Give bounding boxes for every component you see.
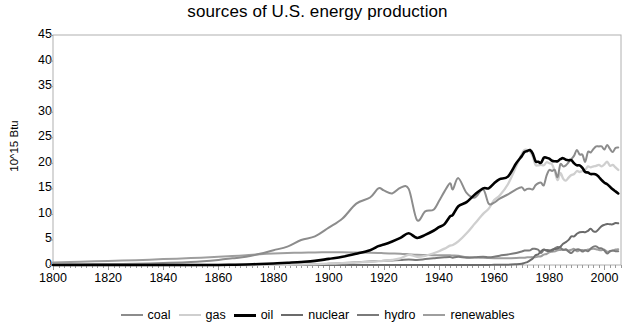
plot-area [0,0,635,335]
legend-swatch-gas [179,314,201,316]
legend-swatch-renewables [423,314,445,316]
legend-label-nuclear: nuclear [308,308,349,322]
legend-label-oil: oil [261,308,274,322]
legend-item-coal[interactable]: coal [121,308,171,322]
legend-label-gas: gas [206,308,226,322]
chart-container: sources of U.S. energy production 10^15 … [0,0,635,335]
legend-label-renewables: renewables [450,308,514,322]
legend-item-nuclear[interactable]: nuclear [281,308,349,322]
plot-frame [53,35,621,265]
legend-item-oil[interactable]: oil [234,308,274,322]
legend-label-coal: coal [148,308,171,322]
legend-swatch-coal [121,314,143,316]
legend-item-renewables[interactable]: renewables [423,308,514,322]
legend-label-hydro: hydro [384,308,415,322]
y-axis-ticks [49,36,53,266]
legend-swatch-oil [234,314,256,317]
legend-swatch-nuclear [281,314,303,316]
chart-legend: coalgasoilnuclearhydrorenewables [0,308,635,322]
legend-item-hydro[interactable]: hydro [357,308,415,322]
legend-swatch-hydro [357,314,379,316]
legend-item-gas[interactable]: gas [179,308,226,322]
